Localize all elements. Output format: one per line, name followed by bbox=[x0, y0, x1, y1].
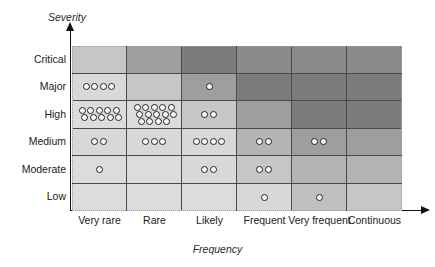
matrix-cell[interactable] bbox=[72, 184, 127, 212]
matrix-cell[interactable] bbox=[292, 46, 347, 74]
matrix-cell[interactable] bbox=[237, 129, 292, 157]
matrix-cell[interactable] bbox=[237, 46, 292, 74]
matrix-cell[interactable] bbox=[347, 156, 402, 184]
risk-item-dot[interactable] bbox=[91, 83, 98, 90]
risk-item-dot[interactable] bbox=[81, 114, 88, 121]
matrix-cell[interactable] bbox=[347, 101, 402, 129]
matrix-cell[interactable] bbox=[347, 184, 402, 212]
risk-item-dot[interactable] bbox=[146, 118, 153, 125]
matrix-cell[interactable] bbox=[72, 101, 127, 129]
matrix-cell[interactable] bbox=[127, 129, 182, 157]
matrix-cell[interactable] bbox=[127, 156, 182, 184]
risk-item-dot[interactable] bbox=[138, 118, 145, 125]
matrix-cell[interactable] bbox=[127, 74, 182, 102]
matrix-cell[interactable] bbox=[292, 101, 347, 129]
risk-item-dot[interactable] bbox=[108, 83, 115, 90]
matrix-cell[interactable] bbox=[182, 74, 237, 102]
risk-item-dot[interactable] bbox=[155, 118, 162, 125]
risk-item-dot[interactable] bbox=[311, 138, 318, 145]
risk-dot-row bbox=[316, 194, 323, 201]
risk-item-dot[interactable] bbox=[96, 166, 103, 173]
matrix-cell[interactable] bbox=[237, 156, 292, 184]
risk-item-dot[interactable] bbox=[168, 104, 175, 111]
matrix-cell[interactable] bbox=[292, 74, 347, 102]
risk-item-dot[interactable] bbox=[145, 111, 152, 118]
risk-item-dot[interactable] bbox=[142, 138, 149, 145]
risk-item-dot[interactable] bbox=[113, 107, 120, 114]
risk-item-dot[interactable] bbox=[201, 166, 208, 173]
matrix-cell[interactable] bbox=[72, 129, 127, 157]
risk-item-dot[interactable] bbox=[218, 138, 225, 145]
risk-item-dot[interactable] bbox=[107, 114, 114, 121]
risk-item-dot[interactable] bbox=[100, 83, 107, 90]
risk-item-dot[interactable] bbox=[170, 111, 177, 118]
risk-item-dot[interactable] bbox=[134, 104, 141, 111]
matrix-cell[interactable] bbox=[237, 74, 292, 102]
risk-item-dot[interactable] bbox=[142, 104, 149, 111]
matrix-cell[interactable] bbox=[182, 129, 237, 157]
y-tick-label-moderate: Moderate bbox=[2, 163, 66, 175]
risk-item-dot[interactable] bbox=[79, 107, 86, 114]
risk-item-dot[interactable] bbox=[96, 107, 103, 114]
risk-item-dot[interactable] bbox=[210, 111, 217, 118]
matrix-cell[interactable] bbox=[72, 46, 127, 74]
risk-item-dot[interactable] bbox=[256, 166, 263, 173]
risk-matrix-chart: Severity CriticalMajorHighMediumModerate… bbox=[0, 0, 435, 267]
risk-dot-row bbox=[256, 166, 272, 173]
risk-dot-cluster bbox=[127, 129, 181, 156]
matrix-cell[interactable] bbox=[347, 129, 402, 157]
matrix-cell[interactable] bbox=[72, 74, 127, 102]
risk-item-dot[interactable] bbox=[201, 138, 208, 145]
risk-item-dot[interactable] bbox=[159, 138, 166, 145]
risk-dot-row bbox=[81, 114, 122, 121]
risk-item-dot[interactable] bbox=[136, 111, 143, 118]
risk-item-dot[interactable] bbox=[256, 138, 263, 145]
risk-item-dot[interactable] bbox=[320, 138, 327, 145]
matrix-cell[interactable] bbox=[182, 156, 237, 184]
risk-item-dot[interactable] bbox=[261, 194, 268, 201]
risk-item-dot[interactable] bbox=[87, 107, 94, 114]
risk-dot-cluster bbox=[182, 156, 236, 183]
risk-item-dot[interactable] bbox=[159, 104, 166, 111]
matrix-cell[interactable] bbox=[237, 101, 292, 129]
matrix-cell[interactable] bbox=[182, 184, 237, 212]
matrix-cell[interactable] bbox=[127, 46, 182, 74]
risk-item-dot[interactable] bbox=[316, 194, 323, 201]
matrix-cell[interactable] bbox=[347, 74, 402, 102]
matrix-cell[interactable] bbox=[127, 101, 182, 129]
risk-dot-row bbox=[138, 118, 171, 125]
matrix-cell[interactable] bbox=[182, 46, 237, 74]
risk-item-dot[interactable] bbox=[201, 111, 208, 118]
risk-item-dot[interactable] bbox=[104, 107, 111, 114]
risk-item-dot[interactable] bbox=[90, 114, 97, 121]
risk-item-dot[interactable] bbox=[100, 138, 107, 145]
risk-item-dot[interactable] bbox=[98, 114, 105, 121]
risk-item-dot[interactable] bbox=[151, 104, 158, 111]
matrix-cell[interactable] bbox=[292, 129, 347, 157]
risk-item-dot[interactable] bbox=[265, 166, 272, 173]
risk-item-dot[interactable] bbox=[91, 138, 98, 145]
risk-item-dot[interactable] bbox=[210, 138, 217, 145]
risk-dot-cluster bbox=[292, 129, 346, 156]
risk-item-dot[interactable] bbox=[153, 111, 160, 118]
risk-item-dot[interactable] bbox=[265, 138, 272, 145]
matrix-cell[interactable] bbox=[237, 184, 292, 212]
risk-dot-row bbox=[193, 138, 226, 145]
risk-item-dot[interactable] bbox=[83, 83, 90, 90]
risk-item-dot[interactable] bbox=[151, 138, 158, 145]
matrix-cell[interactable] bbox=[72, 156, 127, 184]
risk-item-dot[interactable] bbox=[206, 83, 213, 90]
risk-item-dot[interactable] bbox=[115, 114, 122, 121]
x-axis-arrow-icon bbox=[421, 206, 430, 214]
matrix-cell[interactable] bbox=[292, 184, 347, 212]
risk-item-dot[interactable] bbox=[163, 118, 170, 125]
matrix-cell[interactable] bbox=[127, 184, 182, 212]
matrix-cell[interactable] bbox=[182, 101, 237, 129]
matrix-cell[interactable] bbox=[347, 46, 402, 74]
risk-dot-row bbox=[91, 138, 107, 145]
matrix-cell[interactable] bbox=[292, 156, 347, 184]
risk-item-dot[interactable] bbox=[210, 166, 217, 173]
risk-item-dot[interactable] bbox=[162, 111, 169, 118]
matrix-grid bbox=[72, 46, 402, 211]
risk-item-dot[interactable] bbox=[193, 138, 200, 145]
